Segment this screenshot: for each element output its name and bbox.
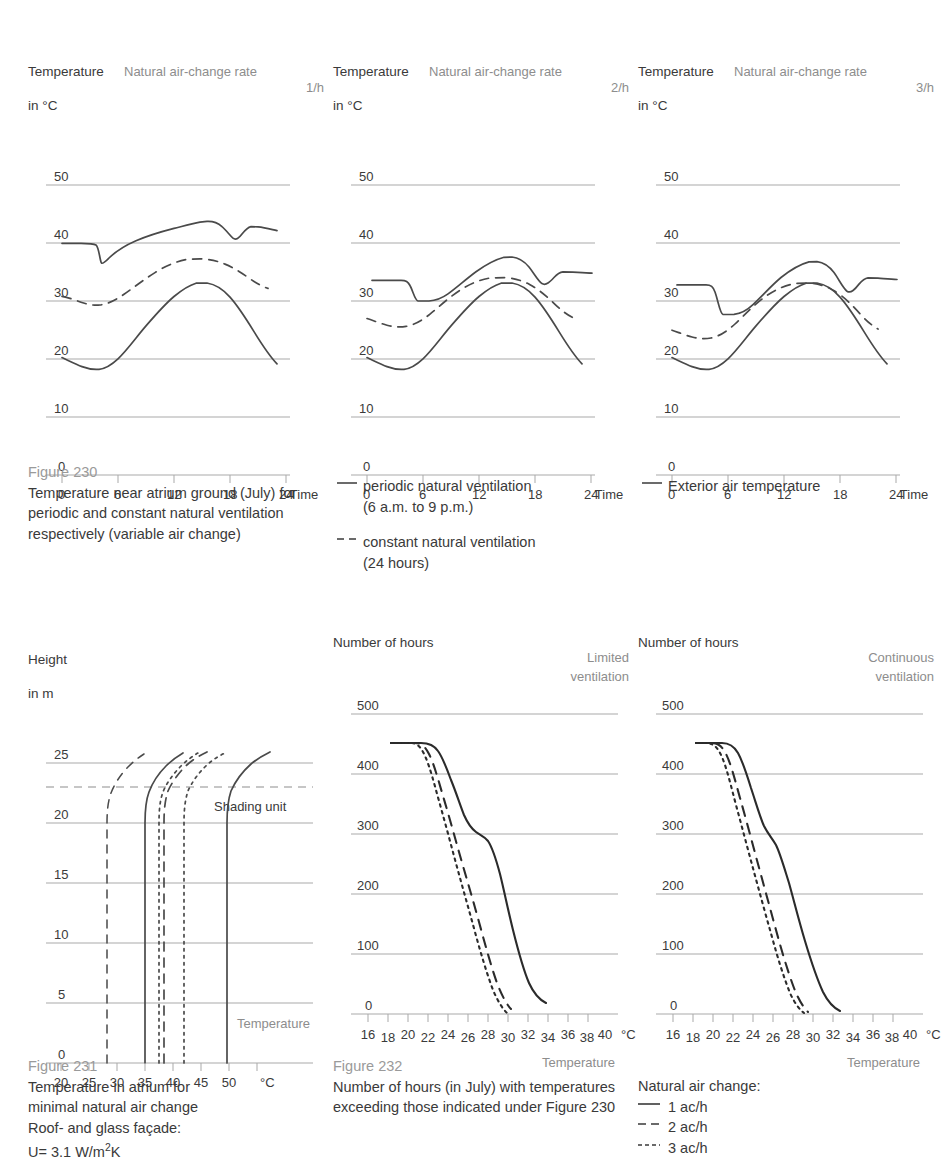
series-curves [391,743,546,1013]
curve-profile-3 [159,753,198,1063]
svg-text:26: 26 [766,1030,780,1045]
curve-1ach [391,743,546,1003]
air-change-rate-label: Natural air-change rate [429,63,629,80]
svg-text:10: 10 [54,401,68,416]
figure-caption-line1: Temperature in atrium for [28,1079,190,1095]
curve-2ach [696,743,808,1012]
legend-label: 1 ac/h [668,1097,928,1118]
figure-caption-line4: U= 3.1 W/m2K [28,1144,120,1160]
shading-unit-label: Shading unit [214,799,287,814]
svg-text:20: 20 [359,343,373,358]
plot-area-temperature-3ach: 50 40 30 20 10 0 0 6 12 18 24 Time [638,157,934,502]
y-tick-labels: 25 20 15 10 5 0 [54,747,68,1062]
y-tick-labels: 500 400 300 200 100 0 [662,698,684,1013]
svg-text:34: 34 [846,1030,860,1045]
air-change-rate-value: 1/h [306,80,324,95]
svg-text:18: 18 [381,1030,395,1045]
svg-text:0: 0 [363,459,370,474]
figure-caption-text: Temperature near atrium ground (July) fo… [28,485,296,542]
series-curves [367,257,592,369]
solid-line-icon [337,476,363,487]
svg-text:400: 400 [357,758,379,773]
svg-text:20: 20 [54,343,68,358]
axis-title-height: Height in m [28,634,324,719]
x-ticks [368,1014,588,1022]
legend-label: 2 ac/h [668,1117,928,1138]
legend-title: Natural air change: [638,1076,928,1097]
curve-exterior-temperature [62,283,277,369]
legend-item: 1 ac/h [638,1097,928,1118]
svg-text:50: 50 [359,169,373,184]
svg-text:30: 30 [806,1030,820,1045]
figure-number: Figure 232 [333,1056,618,1077]
x-tick-labels-bottom: 18 22 26 30 34 38 [333,1028,629,1048]
svg-text:10: 10 [359,401,373,416]
svg-text:10: 10 [664,401,678,416]
svg-text:0: 0 [365,998,372,1013]
svg-text:34: 34 [541,1030,555,1045]
curve-profile-2 [145,753,183,1063]
x-axis-title: Temperature [237,1016,310,1031]
svg-text:20: 20 [54,807,68,822]
x-axis-title: Temperature [847,1055,920,1070]
dashed-line-icon [638,1117,668,1128]
chart-panel-hours-limited: Number of hours Limited ventilation 500 … [333,634,629,1038]
figure-caption-text: Number of hours (in July) with temperatu… [333,1079,615,1116]
svg-text:10: 10 [54,927,68,942]
figure-caption-line2: minimal natural air change [28,1099,198,1115]
svg-text:40: 40 [359,227,373,242]
svg-text:40: 40 [664,227,678,242]
curve-2ach [391,743,511,1009]
plot-area-temperature-2ach: 50 40 30 20 10 0 0 6 12 18 24 Time [333,157,629,502]
svg-text:50: 50 [664,169,678,184]
curve-constant-ventilation [62,259,268,305]
air-change-rate-value: 3/h [916,80,934,95]
figure-number: Figure 230 [28,462,313,483]
legend-item: 2 ac/h [638,1117,928,1138]
plot-area-hours-continuous: 500 400 300 200 100 0 [638,678,934,1038]
dashed-line-icon [337,532,363,543]
svg-text:38: 38 [580,1030,594,1045]
svg-text:18: 18 [686,1030,700,1045]
axis-title-temperature: Temperature in °C [638,46,934,131]
chart-panel-atrium-height-profile: Height in m Shading unit 25 20 15 10 5 0 [28,634,324,1087]
caption-figure-231: Figure 231 Temperature in atrium for min… [28,1056,313,1162]
legend-ventilation: periodic natural ventilation (6 a.m. to … [337,476,627,588]
svg-text:200: 200 [662,878,684,893]
series-curves [672,262,897,370]
svg-text:22: 22 [726,1030,740,1045]
legend-natural-air-change: Natural air change: 1 ac/h 2 ac/h 3 ac/h [638,1076,928,1158]
legend-item: periodic natural ventilation (6 a.m. to … [337,476,627,517]
legend-label: periodic natural ventilation (6 a.m. to … [363,476,627,517]
chart-panel-hours-continuous: Number of hours Continuous ventilation 5… [638,634,934,1038]
svg-text:30: 30 [664,285,678,300]
x-ticks [673,1014,893,1022]
chart-panel-temperature-2ach: Temperature in °C Natural air-change rat… [333,46,629,502]
axis-title-temperature: Temperature in °C [333,46,629,131]
svg-text:300: 300 [662,818,684,833]
svg-text:15: 15 [54,867,68,882]
svg-text:5: 5 [58,987,65,1002]
air-change-rate-label: Natural air-change rate [734,63,934,80]
legend-label: 3 ac/h [668,1138,928,1159]
svg-text:0: 0 [668,459,675,474]
series-curves [696,743,840,1013]
svg-text:100: 100 [357,938,379,953]
svg-text:20: 20 [664,343,678,358]
series-curves [62,221,277,369]
svg-text:50: 50 [54,169,68,184]
legend-item: 3 ac/h [638,1138,928,1159]
svg-text:22: 22 [421,1030,435,1045]
air-change-rate-value: 2/h [611,80,629,95]
svg-text:26: 26 [461,1030,475,1045]
solid-line-icon [642,476,668,487]
curve-1ach [696,743,840,1011]
svg-text:25: 25 [54,747,68,762]
plot-area-height-profile: Shading unit 25 20 15 10 5 0 [28,727,324,1087]
curve-periodic-ventilation [62,221,277,263]
svg-text:500: 500 [357,698,379,713]
svg-text:40: 40 [54,227,68,242]
curve-profile-4 [164,752,207,1063]
solid-line-icon [638,1097,668,1108]
x-tick-labels-bottom: 18 22 26 30 34 38 [638,1028,934,1048]
